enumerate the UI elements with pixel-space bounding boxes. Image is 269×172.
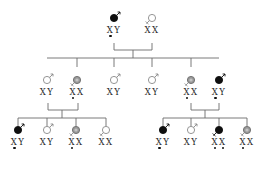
- allele-x: X: [239, 137, 247, 147]
- mutant-allele-dot-icon: [214, 97, 216, 99]
- allele-y: Y: [191, 137, 198, 147]
- male-symbol-icon: [33, 120, 61, 138]
- mutant-allele-dot-icon: [222, 147, 224, 149]
- allele-x: X: [76, 137, 84, 147]
- genotype-label: XX: [62, 137, 90, 147]
- male-symbol-icon: [138, 70, 166, 88]
- female-symbol-icon: [138, 8, 166, 26]
- genotype-label: XY: [177, 137, 205, 147]
- genotype-label: XX: [205, 137, 233, 147]
- genotype-label: XX: [63, 87, 91, 97]
- allele-x: X: [106, 137, 114, 147]
- person-III-1-male-affected: XY: [4, 120, 32, 154]
- female-symbol-icon: [92, 120, 120, 138]
- male-symbol-icon: [205, 70, 233, 88]
- person-II-6-male-affected: XY: [205, 70, 233, 104]
- genotype-label: XX: [177, 87, 205, 97]
- male-symbol-icon: [149, 120, 177, 138]
- allele-y: Y: [18, 137, 25, 147]
- person-III-6-male-unaffected: XY: [177, 120, 205, 154]
- person-III-7-female-affected: XX: [205, 120, 233, 154]
- allele-y: Y: [163, 137, 170, 147]
- mutant-allele-dot-icon: [71, 147, 73, 149]
- mutant-allele-dot-icon: [158, 147, 160, 149]
- genotype-label: XY: [100, 87, 128, 97]
- allele-y: Y: [219, 87, 226, 97]
- allele-x: X: [68, 137, 76, 147]
- genotype-label: XX: [233, 137, 261, 147]
- person-I-1-male-affected: XY: [100, 8, 128, 42]
- genotype-label: XY: [100, 25, 128, 35]
- allele-x: X: [183, 87, 191, 97]
- genotype-label: XY: [138, 87, 166, 97]
- allele-y: Y: [47, 137, 54, 147]
- female-symbol-icon: [205, 120, 233, 138]
- person-II-1-male-unaffected: XY: [33, 70, 61, 104]
- person-III-2-male-unaffected: XY: [33, 120, 61, 154]
- male-symbol-icon: [33, 70, 61, 88]
- female-symbol-icon: [177, 70, 205, 88]
- person-III-4-female-unaffected: XX: [92, 120, 120, 154]
- person-II-5-female-carrier: XX: [177, 70, 205, 104]
- allele-y: Y: [152, 87, 159, 97]
- pedigree-diagram: XYXXXYXXXYXYXXXYXYXYXXXXXYXYXXXX: [0, 0, 269, 172]
- person-III-3-female-carrier: XX: [62, 120, 90, 154]
- male-symbol-icon: [100, 70, 128, 88]
- genotype-label: XX: [138, 25, 166, 35]
- person-II-2-female-carrier: XX: [63, 70, 91, 104]
- mutant-allele-dot-icon: [214, 147, 216, 149]
- allele-y: Y: [114, 87, 121, 97]
- allele-x: X: [247, 137, 255, 147]
- allele-x: X: [211, 137, 219, 147]
- person-II-4-male-unaffected: XY: [138, 70, 166, 104]
- female-symbol-icon: [63, 70, 91, 88]
- mutant-allele-dot-icon: [242, 147, 244, 149]
- allele-x: X: [69, 87, 77, 97]
- allele-x: X: [144, 25, 152, 35]
- mutant-allele-dot-icon: [109, 35, 111, 37]
- allele-y: Y: [114, 25, 121, 35]
- allele-x: X: [219, 137, 227, 147]
- genotype-label: XY: [205, 87, 233, 97]
- person-I-2-female-unaffected: XX: [138, 8, 166, 42]
- mutant-allele-dot-icon: [13, 147, 15, 149]
- allele-x: X: [98, 137, 106, 147]
- genotype-label: XY: [4, 137, 32, 147]
- genotype-label: XX: [92, 137, 120, 147]
- genotype-label: XY: [33, 137, 61, 147]
- male-symbol-icon: [177, 120, 205, 138]
- male-symbol-icon: [100, 8, 128, 26]
- mutant-allele-dot-icon: [72, 97, 74, 99]
- person-III-8-female-carrier: XX: [233, 120, 261, 154]
- female-symbol-icon: [62, 120, 90, 138]
- person-III-5-male-affected: XY: [149, 120, 177, 154]
- allele-x: X: [152, 25, 160, 35]
- allele-y: Y: [47, 87, 54, 97]
- genotype-label: XY: [33, 87, 61, 97]
- allele-x: X: [77, 87, 85, 97]
- allele-x: X: [191, 87, 199, 97]
- genotype-label: XY: [149, 137, 177, 147]
- male-symbol-icon: [4, 120, 32, 138]
- female-symbol-icon: [233, 120, 261, 138]
- person-II-3-male-unaffected: XY: [100, 70, 128, 104]
- mutant-allele-dot-icon: [186, 97, 188, 99]
